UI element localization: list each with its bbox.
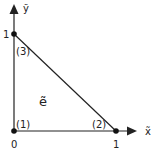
y-axis-arrow-icon xyxy=(10,4,19,14)
reference-triangle-diagram: ỹ x̃ 1 0 1 (1) (2) (3) ẽ xyxy=(0,0,158,157)
node-2-label: (2) xyxy=(92,119,106,130)
origin-tick: 0 xyxy=(11,139,17,150)
y-tick-one: 1 xyxy=(3,29,9,40)
node-1-label: (1) xyxy=(16,119,30,130)
y-axis-label: ỹ xyxy=(23,3,29,14)
node-2 xyxy=(113,128,119,134)
x-tick-one: 1 xyxy=(113,139,119,150)
x-axis-arrow-icon xyxy=(127,127,137,136)
node-3-label: (3) xyxy=(16,46,30,57)
node-3 xyxy=(11,31,17,37)
x-axis-label: x̃ xyxy=(145,126,151,137)
element-label: ẽ xyxy=(39,94,47,109)
